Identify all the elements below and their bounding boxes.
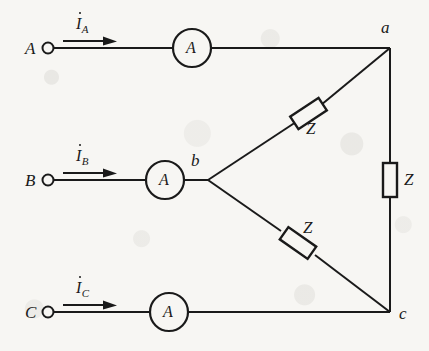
node-label-c: c xyxy=(399,305,407,322)
node-label-b: b xyxy=(191,152,200,169)
ammeter-label-c: A xyxy=(163,304,173,320)
current-subscript-c: C xyxy=(82,287,89,299)
terminal-c-circle[interactable] xyxy=(43,307,54,318)
impedance-label-bc: Z xyxy=(303,219,312,236)
node-label-a: a xyxy=(381,19,390,36)
terminal-a-circle[interactable] xyxy=(43,43,54,54)
branch-ba-wire-upper xyxy=(321,48,390,105)
current-arrow-a-head xyxy=(103,37,117,46)
branch-bc-wire-lower xyxy=(315,255,390,312)
current-symbol-a: I xyxy=(76,15,81,32)
current-symbol-c: I xyxy=(76,279,81,296)
circuit-diagram: A B C IA IB IC A A A a b c Z Z Z xyxy=(0,0,429,351)
impedance-label-ac: Z xyxy=(404,171,413,188)
ammeter-label-a: A xyxy=(186,40,196,56)
current-arrow-b-head xyxy=(103,169,117,178)
current-subscript-b: B xyxy=(82,155,89,167)
terminal-b-circle[interactable] xyxy=(43,175,54,186)
impedance-label-ab: Z xyxy=(306,120,315,137)
terminal-label-c: C xyxy=(25,304,36,321)
current-subscript-a: A xyxy=(82,23,89,35)
current-label-a: IA xyxy=(76,16,89,35)
current-arrow-c-head xyxy=(103,301,117,310)
ammeter-label-b: A xyxy=(159,172,169,188)
current-label-b: IB xyxy=(76,148,89,167)
branch-ba-wire-lower xyxy=(208,122,296,180)
impedance-ac-box[interactable] xyxy=(383,163,397,197)
current-symbol-b: I xyxy=(76,147,81,164)
terminal-label-b: B xyxy=(25,172,35,189)
current-label-c: IC xyxy=(76,280,89,299)
terminal-label-a: A xyxy=(25,40,35,57)
branch-bc-wire-upper xyxy=(208,180,281,231)
schematic-svg xyxy=(0,0,429,351)
